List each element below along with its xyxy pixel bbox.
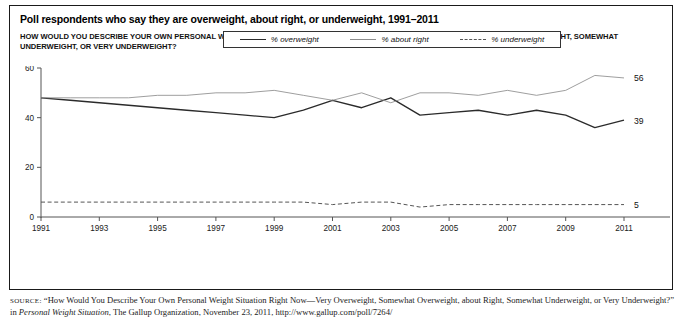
x-tick-label: 2009 [557,224,576,233]
figure-panel: Poll respondents who say they are overwe… [9,5,673,290]
x-tick-label: 1997 [207,224,226,233]
legend-label-overweight: % overweight [271,35,319,44]
legend-line-underweight-icon [460,39,486,40]
y-tick-label: 0 [29,213,34,222]
source-italic-title: Personal Weight Situation [19,307,109,317]
line-chart-svg: 0204060 19911993199519971999200120032005… [10,66,672,288]
legend-item-about-right: % about right [350,35,428,44]
source-note: SOURCE: “How Would You Describe Your Own… [10,295,675,318]
x-tick-label: 1991 [32,224,51,233]
end-label-overweight: 39 [634,116,644,126]
source-label: SOURCE: [10,297,42,305]
figure-title: Poll respondents who say they are overwe… [20,13,662,25]
chart-plot-area: 0204060 19911993199519971999200120032005… [10,66,672,288]
x-tick-label: 1995 [148,224,167,233]
legend-item-underweight: % underweight [460,35,544,44]
y-tick-label: 40 [25,114,35,123]
x-axis: 1991199319951997199920012003200520072009… [32,217,670,233]
y-axis: 0204060 [25,66,41,222]
legend-line-about-right-icon [350,39,376,40]
source-text-after: , The Gallup Organization, November 23, … [109,307,393,317]
chart-series-group [41,75,624,207]
end-label-about-right: 56 [634,73,644,83]
legend-label-underweight: % underweight [491,35,544,44]
series-line-underweight [41,202,624,207]
y-tick-label: 20 [25,163,35,172]
x-tick-label: 2003 [382,224,401,233]
x-tick-label: 2005 [440,224,459,233]
x-tick-label: 1993 [90,224,109,233]
legend-label-about-right: % about right [381,35,428,44]
x-tick-label: 2001 [323,224,342,233]
legend-line-overweight-icon [240,39,266,40]
x-tick-label: 2011 [615,224,633,233]
series-line-overweight [41,98,624,128]
chart-end-labels: 39565 [634,73,644,210]
x-tick-label: 1999 [265,224,284,233]
series-line-about-right [41,75,624,102]
chart-legend: % overweight % about right % underweight [223,31,561,48]
y-tick-label: 60 [25,66,35,73]
x-tick-label: 2007 [498,224,517,233]
legend-item-overweight: % overweight [240,35,319,44]
end-label-underweight: 5 [634,200,639,210]
